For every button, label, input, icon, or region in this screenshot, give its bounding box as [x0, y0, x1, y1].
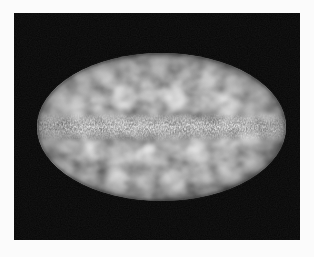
figure-plate [14, 13, 300, 240]
figure-page [0, 0, 314, 257]
all-sky-map [37, 53, 286, 201]
